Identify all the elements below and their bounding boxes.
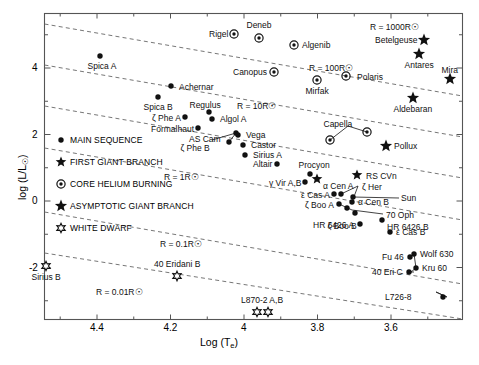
- point-label-mira: Mira: [442, 66, 459, 75]
- hr-diagram-figure: Spica AAchernarSpica BRegulusζ Phe AAlgo…: [0, 0, 479, 365]
- point-label-sun: Sun: [401, 194, 416, 203]
- y-tick-label-3: -2: [29, 262, 38, 273]
- point-label-40-eri-c: 40 Eri C: [372, 268, 403, 277]
- point-label-70-oph: 70 Oph: [386, 211, 414, 220]
- radius-label-5: R = 0.01R☉: [96, 287, 143, 297]
- radius-label-1: R = 100R☉: [309, 63, 353, 73]
- radius-label-4: R = 0.1R☉: [160, 239, 202, 249]
- point-label-cen-a: α Cen A: [323, 182, 353, 191]
- marker-capella-b: [365, 130, 368, 133]
- marker-mirfak: [315, 78, 318, 81]
- point-label-algol-a: Algol A: [220, 115, 246, 124]
- y-tick-label-1: 2: [32, 129, 38, 140]
- marker-phe-a: [182, 114, 187, 119]
- marker-algenib: [292, 43, 295, 46]
- point-label-cen-b: α Cen B: [358, 198, 389, 207]
- point-label-antares: Antares: [405, 61, 434, 70]
- point-label-deneb: Deneb: [247, 21, 272, 30]
- legend-label-first-giant-branch: FIRST GIANT BRANCH: [70, 157, 163, 167]
- marker-regulus: [206, 109, 211, 114]
- legend-label-asymptotic-giant-branch: ASYMPTOTIC GIANT BRANCH: [70, 201, 194, 211]
- point-label-cas-a: ε Cas A: [301, 191, 330, 200]
- legend-label-core-helium-burning: CORE HELIUM BURNING: [70, 179, 173, 189]
- point-label-spica-b: Spica B: [144, 103, 173, 112]
- point-label-rigel: Rigel: [209, 30, 228, 39]
- marker-kru-60: [413, 265, 418, 270]
- marker-sun: [350, 194, 355, 199]
- marker-vega: [235, 132, 240, 137]
- point-label-phe-a: ζ Phe A: [152, 114, 181, 123]
- point-label-altair: Altair: [253, 160, 272, 169]
- marker-capella: [328, 138, 331, 141]
- marker-boo-b: [344, 205, 349, 210]
- point-label-hr-6426-a: HR 6426 A: [313, 221, 354, 230]
- point-label-her: ζ Her: [362, 183, 382, 192]
- point-label-phe-b: ζ Phe B: [181, 144, 210, 153]
- marker-spica-b: [155, 94, 160, 99]
- point-label-aldebaran: Aldebaran: [394, 105, 433, 114]
- point-label-rs-cvn: RS CVn: [366, 172, 397, 181]
- point-label-pollux: Pollux: [394, 142, 417, 151]
- radius-label-0: R = 1000R☉: [370, 22, 419, 32]
- y-tick-label-2: 0: [32, 195, 38, 206]
- marker-40-eri-c: [406, 269, 411, 274]
- point-label-wolf-630: Wolf 630: [420, 250, 453, 259]
- point-label-vir-a-b: γ Vir A,B: [269, 179, 301, 188]
- point-label-formalhaut: Formalhaut: [151, 125, 194, 134]
- point-label-l870-2-a-b: L870-2 A,B: [241, 296, 283, 305]
- marker-hr-6426-a: [357, 221, 362, 226]
- x-tick-label-3: 3.8: [311, 322, 325, 333]
- x-tick-label-2: 4: [241, 322, 247, 333]
- point-label-canopus: Canopus: [233, 68, 267, 77]
- x-tick-label-4: 3.6: [384, 322, 398, 333]
- legend-marker-main-sequence: [58, 137, 63, 142]
- point-label-vega: Vega: [246, 131, 265, 140]
- x-tick-label-1: 4.2: [164, 322, 178, 333]
- radius-label-2: R = 10R☉: [237, 101, 276, 111]
- point-label-capella: Capella: [324, 120, 353, 129]
- marker-l726-8: [440, 294, 445, 299]
- x-axis-title: Log (Te): [200, 336, 238, 350]
- marker-wolf-630: [411, 251, 416, 256]
- marker-procyon: [307, 171, 312, 176]
- legend-marker-core-helium-burning: [59, 182, 62, 185]
- marker-rigel: [232, 32, 235, 35]
- marker-70-oph: [352, 210, 357, 215]
- marker-phe-b: [226, 139, 231, 144]
- marker-vir-a-b: [302, 179, 307, 184]
- point-label-achernar: Achernar: [179, 83, 214, 92]
- point-label-boo-a: ζ Boo A: [305, 201, 334, 210]
- x-tick-label-0: 4.4: [90, 322, 104, 333]
- y-tick-label-0: 4: [32, 62, 38, 73]
- y-axis-title: log (L/L☉): [16, 154, 30, 200]
- marker-hr-6426-b: [379, 217, 384, 222]
- point-label-sirius-b: Sirius B: [32, 273, 61, 282]
- point-label-regulus: Regulus: [190, 101, 221, 110]
- point-label-cas-b: ε Cas B: [396, 228, 425, 237]
- legend-label-main-sequence: MAIN SEQUENCE: [70, 135, 143, 145]
- point-label-mirfak: Mirfak: [306, 87, 329, 96]
- marker-canopus: [272, 70, 275, 73]
- marker-altair: [274, 161, 279, 166]
- point-label-kru-60: Kru 60: [422, 264, 447, 273]
- marker-algol-a: [209, 116, 214, 121]
- marker-cen-a: [338, 191, 343, 196]
- point-label-betelgeuse: Betelgeuse: [375, 36, 418, 45]
- marker-sirius-a: [242, 152, 247, 157]
- point-label-algenib: Algenib: [302, 41, 330, 50]
- point-label-fu-46: Fu 46: [382, 253, 404, 262]
- point-label-40-eridani-b: 40 Eridani B: [154, 260, 200, 269]
- point-label-procyon: Procyon: [299, 161, 330, 170]
- legend-label-white-dwarf: WHITE DWARF: [70, 223, 132, 233]
- marker-achernar: [168, 83, 173, 88]
- marker-polaris: [344, 74, 347, 77]
- marker-formalhaut: [195, 125, 200, 130]
- marker-boo-a: [336, 201, 341, 206]
- marker-cas-a: [331, 191, 336, 196]
- point-label-spica-a: Spica A: [88, 62, 117, 71]
- point-label-l726-8: L726-8: [385, 293, 411, 302]
- point-label-polaris: Polaris: [357, 73, 383, 82]
- point-label-castor: Castor: [251, 141, 276, 150]
- marker-cen-b: [349, 199, 354, 204]
- marker-castor: [240, 142, 245, 147]
